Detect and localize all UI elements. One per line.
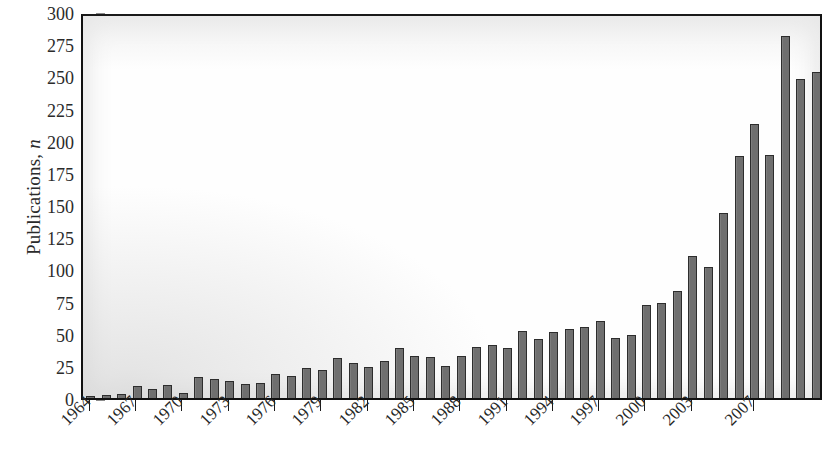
bar-undefined (796, 79, 805, 398)
bar-2001 (657, 303, 666, 398)
bar-1968 (148, 389, 157, 398)
plot-area (81, 14, 822, 400)
y-tick-label-150: 150 (24, 197, 74, 218)
y-tick-label-275: 275 (24, 36, 74, 57)
bar-1993 (534, 339, 543, 398)
bar-2003 (688, 256, 697, 398)
bar-1998 (611, 338, 620, 398)
y-axis-ticks: 0255075100125150175200225250275300 (24, 0, 74, 472)
bar-1994 (549, 332, 558, 398)
bar-2008 (765, 155, 774, 398)
bar-2005 (719, 213, 728, 398)
bar-1996 (580, 327, 589, 398)
bar-1985 (410, 356, 419, 398)
bar-1982 (364, 367, 373, 398)
bar-1970 (179, 393, 188, 398)
bar-1979 (318, 370, 327, 398)
y-tick-label-125: 125 (24, 229, 74, 250)
y-tick-label-175: 175 (24, 164, 74, 185)
bar-1999 (627, 335, 636, 398)
y-tick-label-250: 250 (24, 68, 74, 89)
bar-1973 (225, 381, 234, 398)
y-tick-label-200: 200 (24, 132, 74, 153)
publications-bar-chart: Publications, n 025507510012515017520022… (0, 0, 840, 472)
bar-undefined (812, 72, 821, 398)
bar-1976 (271, 374, 280, 398)
y-tick-label-225: 225 (24, 100, 74, 121)
bar-undefined (781, 36, 790, 398)
bar-2000 (642, 305, 651, 398)
bar-1990 (488, 345, 497, 398)
bar-1977 (287, 376, 296, 398)
bar-1991 (503, 348, 512, 398)
bar-1980 (333, 358, 342, 398)
bar-series (83, 16, 820, 398)
bar-1986 (426, 357, 435, 398)
bar-1967 (133, 386, 142, 398)
y-tick-label-300: 300 (24, 4, 74, 25)
bar-1995 (565, 329, 574, 398)
y-tick-label-50: 50 (24, 325, 74, 346)
y-tick-label-100: 100 (24, 261, 74, 282)
bar-1974 (241, 384, 250, 398)
bar-1984 (395, 348, 404, 398)
bar-1965 (102, 395, 111, 398)
y-tick-label-75: 75 (24, 293, 74, 314)
bar-2006 (735, 156, 744, 398)
bar-2004 (704, 267, 713, 398)
bar-1988 (457, 356, 466, 398)
bar-2007 (750, 124, 759, 398)
bar-1992 (518, 331, 527, 398)
x-axis-ticks: 1964196719701973197619791982198519881991… (81, 400, 822, 472)
bar-1997 (596, 321, 605, 398)
y-tick-label-25: 25 (24, 357, 74, 378)
bar-1983 (380, 361, 389, 398)
bar-2002 (673, 291, 682, 398)
bar-1989 (472, 347, 481, 398)
bar-1971 (194, 377, 203, 398)
